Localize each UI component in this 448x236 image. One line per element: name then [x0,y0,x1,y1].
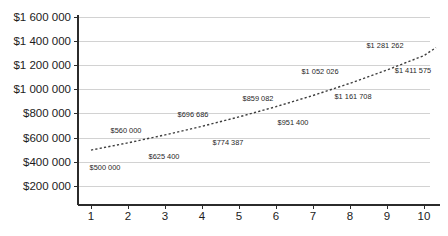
data-point-label: $696 686 [178,110,209,119]
data-point-label: $859 082 [243,94,274,103]
y-tick-label: $400 000 [23,156,71,168]
x-tick-label: 9 [384,210,390,222]
y-tick-label: $1 400 000 [13,35,71,47]
x-tick-label: 10 [418,210,431,222]
line-chart: $1 600 000$1 400 000$1 200 000$1 000 000… [0,0,448,236]
x-tick-label: 8 [347,210,353,222]
chart-container: $1 600 000$1 400 000$1 200 000$1 000 000… [0,0,448,236]
y-tick-label: $600 000 [23,132,71,144]
x-tick-label: 3 [162,210,168,222]
y-tick-label: $800 000 [23,107,71,119]
y-tick-label: $1 200 000 [13,59,71,71]
data-point-label: $500 000 [90,163,121,172]
data-point-label: $774 387 [213,138,244,147]
y-tick-label: $1 000 000 [13,83,71,95]
data-point-label: $625 400 [149,152,180,161]
y-tick-label: $1 600 000 [13,11,71,23]
y-tick-label: $200 000 [23,180,71,192]
x-tick-label: 6 [273,210,279,222]
data-point-label: $1 281 262 [367,41,404,50]
data-point-label: $1 411 575 [395,66,431,75]
x-tick-label: 7 [310,210,316,222]
x-tick-label: 5 [236,210,242,222]
x-tick-label: 2 [125,210,131,222]
data-point-label: $1 052 026 [302,67,339,76]
x-tick-label: 1 [88,210,94,222]
data-point-label: $951 400 [278,118,309,127]
x-tick-label: 4 [199,210,206,222]
data-point-label: $1 161 708 [335,92,372,101]
data-point-label: $560 000 [111,126,142,135]
